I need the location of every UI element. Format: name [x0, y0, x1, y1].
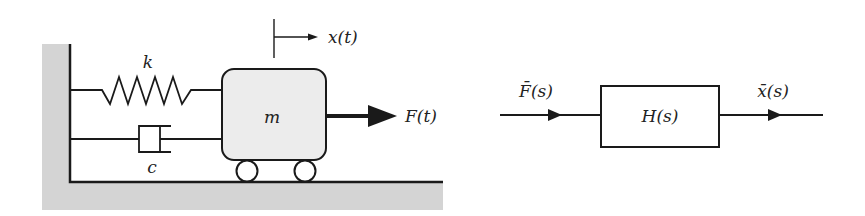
- input-label: F̄(s): [518, 80, 553, 101]
- force-arrow: [326, 105, 397, 127]
- input-arrow-icon: [548, 109, 562, 121]
- output-label: x̄(s): [757, 81, 789, 101]
- wheel-left: [237, 161, 258, 182]
- output-arrow-icon: [768, 109, 782, 121]
- spring-label: k: [143, 52, 153, 72]
- damper: [70, 126, 222, 152]
- force-label: F(t): [404, 106, 437, 126]
- wheel-right: [295, 161, 316, 182]
- transfer-function-label: H(s): [641, 106, 679, 126]
- displacement-label: x(t): [328, 27, 358, 47]
- diagram-canvas: k c m x(t) F(t) F̄(s) H(s) x̄(s): [0, 0, 865, 216]
- spring: [70, 77, 222, 104]
- mass-label: m: [264, 107, 280, 127]
- damper-label: c: [147, 157, 157, 177]
- displacement-arrow: [274, 19, 318, 58]
